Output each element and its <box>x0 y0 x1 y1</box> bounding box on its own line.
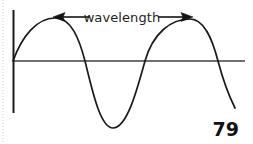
wavelength-label: wavelength <box>84 10 161 25</box>
page-number: 79 <box>213 118 239 140</box>
wavelength-figure: wavelength 79 <box>0 0 253 144</box>
wavelength-left-arrowhead-icon <box>53 13 65 22</box>
wavelength-right-arrowhead-icon <box>181 13 193 22</box>
wave-diagram-canvas: wavelength 79 <box>0 0 253 144</box>
sine-wave-curve <box>13 18 235 128</box>
